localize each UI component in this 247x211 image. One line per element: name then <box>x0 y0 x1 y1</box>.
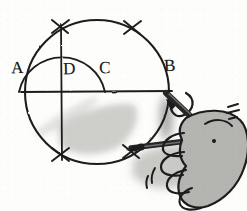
point-label-D: D <box>63 60 76 77</box>
tick-upper-right <box>124 21 141 34</box>
drawing-layer <box>0 0 247 211</box>
horizontal-diameter <box>21 91 172 92</box>
knuckle-dot <box>212 139 216 143</box>
point-label-C: C <box>99 59 111 76</box>
shading-layer <box>36 96 137 154</box>
vertical-chord <box>61 24 62 160</box>
compass-hinge <box>137 143 144 150</box>
point-label-B: B <box>164 57 176 75</box>
sketch-canvas: A D C B <box>0 0 247 211</box>
point-label-A: A <box>11 59 24 76</box>
tick-lower-left <box>52 148 69 161</box>
